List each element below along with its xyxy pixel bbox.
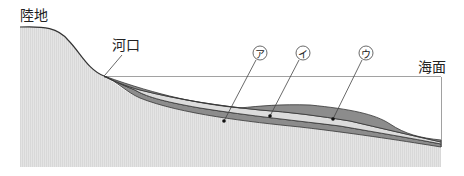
label-sea-surface: 海面 [418, 59, 446, 75]
marker-i-label: イ [298, 49, 308, 60]
river-mouth-sediment-diagram: 陸地 河口 海面 ア イ ウ [0, 0, 464, 176]
leader-river-mouth [105, 55, 122, 75]
marker-a-label: ア [255, 49, 265, 60]
label-river-mouth: 河口 [112, 37, 140, 53]
marker-u-dot [331, 117, 335, 121]
label-land: 陸地 [20, 7, 48, 23]
marker-u-label: ウ [361, 49, 371, 60]
marker-a-dot [222, 119, 226, 123]
marker-i-dot [268, 114, 272, 118]
